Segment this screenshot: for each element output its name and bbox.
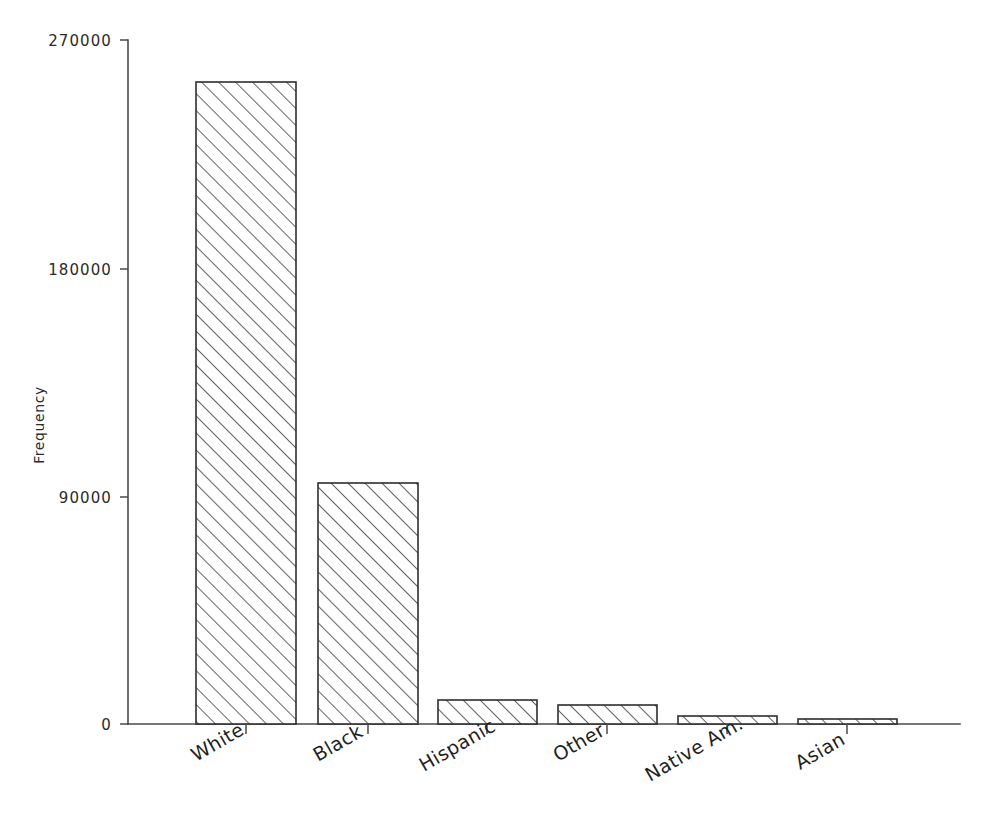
y-tick-label-0: 0 — [101, 716, 112, 734]
y-tick-label-270000: 270000 — [48, 32, 112, 50]
bar-black[interactable] — [318, 483, 418, 724]
chart-canvas: 270000 180000 90000 0 Frequency White Bl… — [0, 0, 982, 818]
bar-white[interactable] — [196, 82, 296, 724]
bars-group — [196, 82, 897, 724]
bar-chart-figure: 270000 180000 90000 0 Frequency White Bl… — [0, 0, 982, 818]
x-tick-label-black: Black — [309, 720, 366, 766]
x-tick-label-other: Other — [549, 718, 608, 765]
x-tick-label-asian: Asian — [791, 727, 849, 773]
bar-other[interactable] — [558, 705, 657, 724]
y-axis-ticks — [120, 40, 128, 724]
y-tick-label-180000: 180000 — [48, 261, 112, 279]
y-axis-title: Frequency — [31, 386, 47, 464]
x-tick-label-white: White — [187, 718, 248, 766]
bar-asian[interactable] — [798, 719, 897, 724]
y-tick-label-90000: 90000 — [59, 489, 112, 507]
